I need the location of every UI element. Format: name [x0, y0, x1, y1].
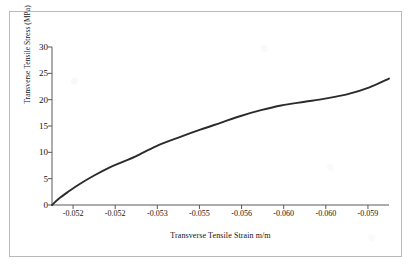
- y-tick-label: 20: [22, 95, 48, 104]
- y-tick-label: 10: [22, 148, 48, 157]
- x-tick-label: -0.053: [147, 210, 168, 218]
- x-tick-label: -0.052: [105, 210, 126, 218]
- y-tick-label: 25: [22, 69, 48, 78]
- x-axis-tick-labels: -0.052-0.052-0.053-0.055-0.056-0.060-0.0…: [52, 210, 389, 224]
- x-tick-label: -0.060: [315, 210, 336, 218]
- x-tick-label: -0.059: [358, 210, 379, 218]
- data-series-line: [52, 79, 389, 205]
- x-tick-label: -0.060: [273, 210, 294, 218]
- chart-svg: [52, 47, 389, 205]
- x-tick-label: -0.055: [189, 210, 210, 218]
- figure-container: Transverse Tensile Stress (MPa) 05101520…: [0, 0, 413, 270]
- x-tick-label: -0.052: [63, 210, 84, 218]
- y-axis-tick-labels: 051015202530: [22, 40, 48, 212]
- y-tick-label: 0: [22, 201, 48, 210]
- x-tick-label: -0.056: [231, 210, 252, 218]
- y-tick-label: 5: [22, 174, 48, 183]
- y-tick-label: 15: [22, 122, 48, 131]
- y-tick-label: 30: [22, 43, 48, 52]
- x-axis-title: Transverse Tensile Strain m/m: [52, 231, 389, 240]
- plot-area: [52, 47, 389, 205]
